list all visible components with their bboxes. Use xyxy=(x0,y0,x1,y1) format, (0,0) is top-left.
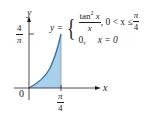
brace-icon: { xyxy=(67,15,76,41)
tan-text: tan xyxy=(80,11,91,21)
bound-numerator: π xyxy=(133,11,140,22)
x-tick-label: π 4 xyxy=(57,92,64,113)
y-tick-label: 4 π xyxy=(16,24,23,45)
piecewise-equation: y = { tan2 x x , 0 < x ≤ π 4 0, x = 0 xyxy=(50,10,139,45)
case-2-condition: x = 0 xyxy=(98,35,118,45)
x-axis-label: x xyxy=(103,83,107,93)
y-tick-denominator: π xyxy=(17,35,22,45)
case-1-fraction: tan2 x x xyxy=(79,10,101,33)
x-tick-denominator: 4 xyxy=(58,103,63,113)
case-1-bound: π 4 xyxy=(133,11,140,32)
case-1: tan2 x x , 0 < x ≤ π 4 xyxy=(79,10,140,33)
case-1-condition: , 0 < x ≤ xyxy=(101,17,133,27)
numerator-var: x xyxy=(94,11,100,21)
y-axis-label: y xyxy=(27,8,31,18)
case-1-numerator: tan2 x xyxy=(79,10,101,23)
case-1-denominator: x xyxy=(88,23,92,33)
origin-label: 0 xyxy=(19,89,24,99)
case-2: 0, x = 0 xyxy=(79,35,140,45)
equation-lhs: y = xyxy=(50,23,63,33)
case-2-value: 0, xyxy=(79,35,86,45)
equation-cases: tan2 x x , 0 < x ≤ π 4 0, x = 0 xyxy=(79,10,140,45)
x-tick-numerator: π xyxy=(57,92,64,103)
bound-denominator: 4 xyxy=(134,22,139,32)
x-axis-arrow-icon xyxy=(95,86,101,90)
y-tick-numerator: 4 xyxy=(16,24,23,35)
